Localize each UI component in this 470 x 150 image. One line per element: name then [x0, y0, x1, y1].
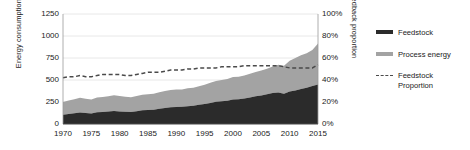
- legend-item-process-energy: Process energy: [376, 50, 470, 60]
- y-tick-label-left: 1250: [19, 10, 59, 18]
- legend-label-feedstock: Feedstock: [398, 28, 433, 38]
- y-tick-label-left: 750: [19, 54, 59, 62]
- legend-swatch-process-energy-icon: [376, 52, 393, 56]
- chart-figure: Energy consumption (Mtoe) Feedback propo…: [0, 0, 470, 150]
- legend-item-feedstock-proportion: Feedstock Proportion: [376, 71, 470, 90]
- legend-swatch-feedstock-proportion-icon: [376, 75, 393, 76]
- y-tick-label-left: 0: [19, 120, 59, 128]
- legend-swatch-feedstock-icon: [376, 30, 393, 34]
- legend-item-feedstock: Feedstock: [376, 28, 470, 38]
- y-tick-label-right: 40%: [322, 76, 362, 84]
- chart-legend: Feedstock Process energy Feedstock Propo…: [376, 28, 470, 90]
- y-tick-label-right: 60%: [322, 54, 362, 62]
- x-tick-label: 2015: [301, 130, 335, 138]
- y-tick-label-right: 0%: [322, 120, 362, 128]
- y-tick-label-left: 1000: [19, 32, 59, 40]
- y-tick-label-right: 80%: [322, 32, 362, 40]
- y-tick-label-left: 500: [19, 76, 59, 84]
- legend-label-feedstock-proportion: Feedstock Proportion: [398, 71, 433, 90]
- legend-label-process-energy: Process energy: [398, 50, 451, 60]
- y-tick-label-right: 20%: [322, 98, 362, 106]
- y-tick-label-right: 100%: [322, 10, 362, 18]
- y-tick-label-left: 250: [19, 98, 59, 106]
